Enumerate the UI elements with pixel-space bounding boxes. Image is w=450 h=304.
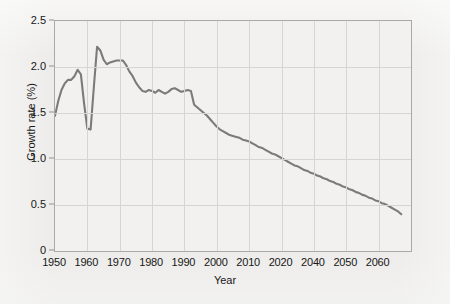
gridline-vertical [87, 21, 88, 251]
x-tick-label: 1960 [75, 256, 99, 268]
gridline-vertical [120, 21, 121, 251]
y-tick-label: 2.0 [0, 60, 46, 72]
y-tick-label: 1.5 [0, 106, 46, 118]
y-tick-mark [49, 20, 54, 21]
gridline-vertical [346, 21, 347, 251]
gridline-vertical [314, 21, 315, 251]
x-tick-label: 1970 [107, 256, 131, 268]
gridline-vertical [249, 21, 250, 251]
y-axis-title: Growth rate (%) [25, 42, 37, 202]
x-tick-label: 2000 [204, 256, 228, 268]
gridline-horizontal [55, 67, 411, 68]
x-tick-label: 1950 [42, 256, 66, 268]
y-tick-label: 2.5 [0, 14, 46, 26]
gridline-vertical [152, 21, 153, 251]
gridline-vertical [184, 21, 185, 251]
y-tick-mark [49, 158, 54, 159]
y-tick-mark [49, 112, 54, 113]
gridline-horizontal [55, 159, 411, 160]
x-tick-label: 1990 [172, 256, 196, 268]
x-tick-label: 2040 [301, 256, 325, 268]
line-series-layer [55, 21, 411, 251]
gridline-horizontal [55, 205, 411, 206]
series-line-world-population-growth-rate [55, 47, 401, 214]
x-tick-label: 2050 [333, 256, 357, 268]
x-tick-label: 2010 [236, 256, 260, 268]
y-tick-label: 0.5 [0, 198, 46, 210]
gridline-horizontal [55, 113, 411, 114]
x-tick-label: 2060 [366, 256, 390, 268]
y-tick-mark [49, 204, 54, 205]
y-tick-mark [49, 250, 54, 251]
gridline-vertical [379, 21, 380, 251]
x-axis-title: Year [0, 274, 450, 286]
plot-area [54, 20, 412, 252]
y-tick-mark [49, 66, 54, 67]
x-tick-label: 1980 [139, 256, 163, 268]
y-tick-label: 1.0 [0, 152, 46, 164]
gridline-vertical [217, 21, 218, 251]
x-tick-label: 2020 [269, 256, 293, 268]
y-tick-label: 0 [0, 244, 46, 256]
gridline-vertical [282, 21, 283, 251]
figure: 00.51.01.52.02.5 19501960197019801990200… [0, 0, 450, 304]
